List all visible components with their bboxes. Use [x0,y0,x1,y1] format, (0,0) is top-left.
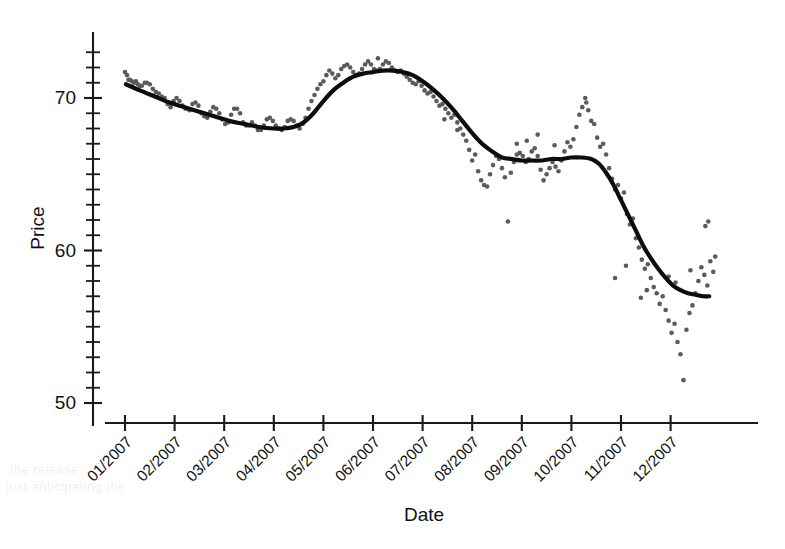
y-axis: 506070 [55,33,102,425]
y-axis-title: Price [27,206,48,249]
scatter-point [376,56,381,61]
scatter-point [699,265,704,270]
scatter-point [336,73,341,78]
scatter-point [684,328,689,333]
scatter-point [464,138,469,143]
scatter-point [446,111,451,116]
scatter-point [535,132,540,137]
scatter-point [574,125,579,130]
scatter-point [488,172,493,177]
scatter-point [624,263,629,268]
x-axis: 01/200702/200703/200704/200705/200706/20… [83,415,757,485]
scatter-point [678,352,683,357]
scatter-point [639,295,644,300]
scatter-point [515,141,520,146]
scatter-point [592,122,597,127]
scatter-point [312,93,317,98]
scatter-point [583,96,588,101]
scatter-point [235,106,240,111]
x-axis-title: Date [404,504,444,525]
scatter-point [455,120,460,125]
scatter-point [442,117,447,122]
scatter-point [214,106,219,111]
x-tick-label-12/2007: 12/2007 [629,433,681,485]
x-tick-label-06/2007: 06/2007 [331,433,383,485]
scatter-point [595,135,600,140]
trend-line [126,70,709,296]
scatter-point [648,276,653,281]
scatter-point [672,321,677,326]
scatter-point [324,73,329,78]
scatter-point [315,87,320,92]
scatter-point [177,99,182,104]
scatter-point [552,143,557,148]
x-tick-label-08/2007: 08/2007 [431,433,483,485]
scatter-point [470,158,475,163]
scatter-point [613,276,618,281]
scatter-point [148,82,153,87]
scatter-point [688,268,693,273]
scatter-point [607,166,612,171]
scatter-point [485,184,490,189]
scatter-point [291,119,296,124]
scatter-point [565,140,570,145]
scatter-point [708,259,713,264]
scatter-point [643,267,648,272]
scatter-point [491,163,496,168]
x-tick-label-04/2007: 04/2007 [232,433,284,485]
scatter-point [696,279,701,284]
scatter-point [690,303,695,308]
scatter-point [309,99,314,104]
scatter-point [306,106,311,111]
scatter-point [473,152,478,157]
scatter-point [524,138,529,143]
scatter-point [681,378,686,383]
scatter-point [455,128,460,133]
scatter-point [503,175,508,180]
scatter-point [571,137,576,142]
scatter-point [479,178,484,183]
price-vs-date-chart: 506070 01/200702/200703/200704/200705/20… [0,0,785,549]
scatter-point [666,318,671,323]
scatter-point [500,166,505,171]
scatter-point [660,294,665,299]
scatter-point [657,302,662,307]
scatter-point [360,67,365,72]
x-tick-label-05/2007: 05/2007 [282,433,334,485]
scatter-point [434,99,439,104]
chart-canvas: 506070 01/200702/200703/200704/200705/20… [0,0,785,549]
scatter-point [637,245,642,250]
scatter-point [538,167,543,172]
scatter-point [330,71,335,76]
scatter-point [654,291,659,296]
scatter-point [580,105,585,110]
x-tick-label-02/2007: 02/2007 [133,433,185,485]
scatter-point [321,79,326,84]
scatter-point [702,273,707,278]
scatter-point [443,106,448,111]
scatter-point [387,61,392,66]
scatter-point [713,254,718,259]
scatter-point [541,178,546,183]
scatter-point [196,103,201,108]
scatter-point [431,94,436,99]
scatter-point [640,257,645,262]
scatter-point [568,145,573,150]
trend-line-layer [126,70,709,296]
scatter-point [622,190,627,195]
scatter-point [675,340,680,345]
scatter-point [238,111,243,116]
scatter-point [532,146,537,151]
scatter-point [577,112,582,117]
scatter-point [348,65,353,70]
scatter-point [645,262,650,267]
scatter-point [663,308,668,313]
x-tick-label-01/2007: 01/2007 [83,433,135,485]
scatter-point [651,285,656,290]
scatter-point [687,311,692,316]
x-tick-label-09/2007: 09/2007 [480,433,532,485]
scatter-point [553,164,558,169]
x-tick-label-03/2007: 03/2007 [183,433,235,485]
scatter-point [556,169,561,174]
scatter-point [461,132,466,137]
